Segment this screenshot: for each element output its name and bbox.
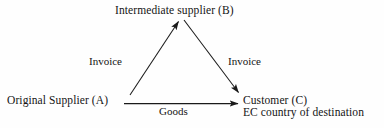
- diagram-canvas: Intermediate supplier (B) Original Suppl…: [0, 0, 384, 128]
- edge-label-goods-a-to-c: Goods: [159, 106, 188, 118]
- arrow-a-to-b: [130, 22, 179, 96]
- edge-label-invoice-b-to-c: Invoice: [228, 56, 261, 68]
- node-sublabel-ec-country-of-destination: EC country of destination: [243, 106, 364, 118]
- node-label-intermediate-supplier: Intermediate supplier (B): [115, 4, 234, 16]
- edge-label-invoice-a-to-b: Invoice: [89, 56, 122, 68]
- node-label-original-supplier: Original Supplier (A): [7, 94, 108, 106]
- node-label-customer: Customer (C): [243, 94, 364, 106]
- node-label-customer-group: Customer (C) EC country of destination: [243, 94, 364, 118]
